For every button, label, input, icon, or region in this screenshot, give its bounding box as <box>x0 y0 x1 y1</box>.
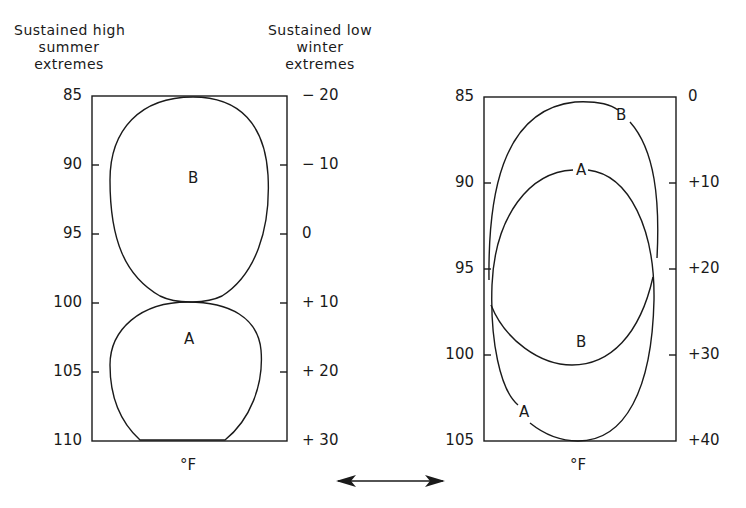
right-panel-curve-b-upper <box>489 102 658 280</box>
left-panel-curve-b <box>110 97 268 302</box>
diagram-canvas <box>0 0 746 508</box>
right-panel-label-a-top: A <box>576 161 586 179</box>
left-panel-label-b: B <box>188 169 198 187</box>
right-panel-label-b-top: B <box>616 106 626 124</box>
right-panel-curve-a <box>492 170 654 441</box>
right-panel-curve-b-lower <box>491 277 653 365</box>
right-panel-label-a-bottom: A <box>519 403 529 421</box>
left-panel-label-a: A <box>184 330 194 348</box>
right-panel-label-b-bottom: B <box>576 333 586 351</box>
right-panel-frame <box>484 97 676 441</box>
left-panel-curve-a <box>110 302 261 440</box>
